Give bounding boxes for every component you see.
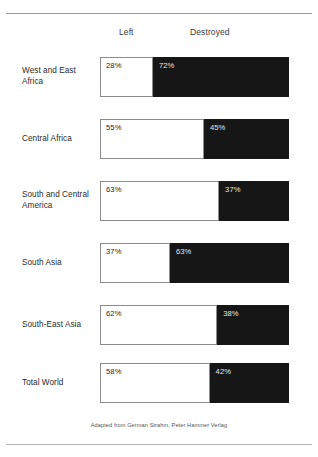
chart-row: Central Africa55%45% [0,119,318,159]
chart-row: Total World58%42% [0,363,318,403]
bar-segment-destroyed: 72% [153,57,289,97]
bar-segment-left: 55% [100,119,204,159]
row-category-label: South-East Asia [22,320,98,331]
bar-value-destroyed: 38% [223,309,239,318]
row-category-label: Central Africa [22,134,98,145]
bottom-divider [6,444,312,445]
stacked-bar: 55%45% [100,119,289,159]
bar-segment-left: 28% [100,57,153,97]
chart-row: West and East Africa28%72% [0,57,318,97]
bar-value-destroyed: 42% [216,367,232,376]
row-category-label: West and East Africa [22,66,98,87]
stacked-bar: 28%72% [100,57,289,97]
bar-value-left: 55% [106,123,122,132]
bar-segment-destroyed: 38% [217,305,289,345]
bar-value-destroyed: 72% [159,61,175,70]
stacked-bar: 62%38% [100,305,289,345]
bar-segment-destroyed: 42% [210,363,289,403]
chart-row: South and Central America63%37% [0,181,318,221]
stacked-bar: 63%37% [100,181,289,221]
bar-segment-left: 37% [100,243,170,283]
source-credit: Adapted from German Strahm, Peter Hammer… [0,422,318,428]
chart-page: Left Destroyed West and East Africa28%72… [0,0,318,457]
bar-segment-left: 62% [100,305,217,345]
bar-segment-destroyed: 37% [219,181,289,221]
bar-value-left: 62% [106,309,122,318]
bar-value-destroyed: 63% [176,247,192,256]
bar-value-left: 58% [106,367,122,376]
row-category-label: South and Central America [22,190,98,211]
stacked-bar: 58%42% [100,363,289,403]
bar-segment-destroyed: 45% [204,119,289,159]
stacked-bar: 37%63% [100,243,289,283]
bar-segment-destroyed: 63% [170,243,289,283]
row-category-label: South Asia [22,258,98,269]
bar-value-left: 63% [106,185,122,194]
chart-row: South-East Asia62%38% [0,305,318,345]
chart-row: South Asia37%63% [0,243,318,283]
bar-value-left: 37% [106,247,122,256]
bar-value-left: 28% [106,61,122,70]
chart-rows: West and East Africa28%72%Central Africa… [0,0,318,457]
row-category-label: Total World [22,378,98,389]
bar-value-destroyed: 37% [225,185,241,194]
bar-value-destroyed: 45% [210,123,226,132]
bar-segment-left: 58% [100,363,210,403]
bar-segment-left: 63% [100,181,219,221]
